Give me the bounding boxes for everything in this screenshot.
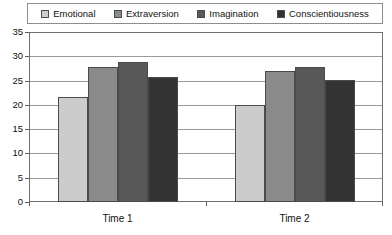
y-tick-label: 25 [1, 76, 23, 86]
legend-item[interactable]: Imagination [197, 9, 258, 19]
legend-item[interactable]: Extraversion [114, 9, 179, 19]
y-tick-label: 0 [1, 197, 23, 207]
x-tick-mark [382, 202, 383, 206]
chart-legend: EmotionalExtraversionImaginationConscien… [27, 3, 383, 24]
x-tick-label: Time 1 [102, 213, 132, 224]
legend-swatch-icon [277, 10, 285, 18]
bar [325, 80, 355, 202]
legend-item-label: Extraversion [126, 9, 179, 19]
bar-group [206, 32, 383, 202]
x-tick-mark [206, 202, 207, 206]
bar-group [29, 32, 206, 202]
y-tick-label: 10 [1, 148, 23, 158]
legend-swatch-icon [114, 10, 122, 18]
legend-swatch-icon [41, 10, 49, 18]
bar [148, 77, 178, 202]
legend-item[interactable]: Emotional [41, 9, 95, 19]
y-tick-label: 5 [1, 173, 23, 183]
legend-item-label: Emotional [53, 9, 95, 19]
bar [58, 97, 88, 202]
y-tick-label: 30 [1, 51, 23, 61]
legend-item[interactable]: Conscientiousness [277, 9, 369, 19]
bar [265, 71, 295, 202]
x-tick-mark [29, 202, 30, 206]
legend-item-label: Imagination [209, 9, 258, 19]
bar [88, 67, 118, 203]
y-tick-label: 35 [1, 27, 23, 37]
bar [235, 105, 265, 202]
legend-swatch-icon [197, 10, 205, 18]
legend-item-label: Conscientiousness [289, 9, 369, 19]
x-axis: Time 1Time 2 [29, 202, 383, 235]
bar [118, 62, 148, 202]
y-tick-label: 20 [1, 100, 23, 110]
x-tick-label: Time 2 [279, 213, 309, 224]
y-tick-label: 15 [1, 124, 23, 134]
bar [295, 67, 325, 202]
bars-layer [29, 32, 383, 202]
bar-chart: EmotionalExtraversionImaginationConscien… [0, 0, 392, 235]
y-axis: 05101520253035 [0, 32, 29, 202]
